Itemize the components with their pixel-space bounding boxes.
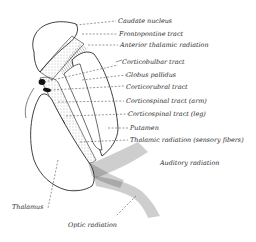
thalamus-small-mark: ~~~ [72, 189, 77, 193]
label-globus-pallidus: Globus pallidus [126, 72, 176, 78]
optic-radiation-fibers [94, 176, 160, 218]
label-corticospinal-leg: Corticospinal tract (leg) [128, 111, 206, 117]
label-anterior-thalamic-radiation: Anterior thalamic radiation [120, 42, 209, 48]
label-thalamic-radiation: Thalamic radiation (sensory fibers) [130, 137, 244, 143]
label-corticobulbar-tract: Corticobulbar tract [122, 59, 185, 65]
label-optic-radiation: Optic radiation [68, 222, 117, 228]
label-caudate-nucleus: Caudate nucleus [118, 18, 172, 24]
label-thalamus: Thalamus [12, 204, 44, 210]
label-auditory-radiation: Auditory radiation [160, 160, 219, 166]
label-corticospinal-arm: Corticospinal tract (arm) [126, 98, 207, 104]
label-putamen: Putamen [130, 125, 159, 131]
label-corticorubral-tract: Corticorubral tract [126, 84, 188, 90]
label-frontopontine-tract: Frontopontine tract [119, 31, 183, 37]
